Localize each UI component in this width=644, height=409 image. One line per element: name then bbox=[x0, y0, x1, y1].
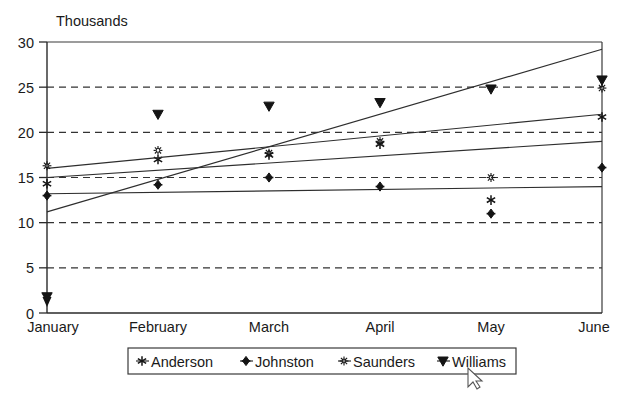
asterisk-ray bbox=[604, 90, 606, 92]
asterisk-ray bbox=[599, 85, 601, 87]
datapoint-williams-may bbox=[486, 85, 496, 94]
asterisk-ray bbox=[493, 174, 495, 176]
asterisk-ray bbox=[160, 147, 162, 149]
triangle-down-icon bbox=[486, 85, 496, 94]
line-chart: 051015202530ThousandsJanuaryFebruaryMarc… bbox=[0, 0, 644, 409]
datapoint-anderson-june bbox=[598, 112, 606, 122]
asterisk-ray bbox=[49, 163, 51, 165]
datapoint-anderson-february bbox=[154, 155, 162, 165]
datapoint-williams-march bbox=[264, 102, 274, 111]
datapoint-johnston-february bbox=[154, 180, 163, 189]
asterisk-ray bbox=[493, 179, 495, 181]
x-tick-label-june: June bbox=[578, 319, 609, 335]
asterisk-ray bbox=[271, 150, 273, 152]
trendline-saunders bbox=[47, 114, 602, 168]
asterisk-ray bbox=[377, 138, 379, 140]
series-anderson bbox=[43, 112, 606, 205]
y-gridlines: 051015202530 bbox=[18, 35, 602, 322]
legend-label-saunders: Saunders bbox=[353, 354, 415, 370]
asterisk-core bbox=[156, 149, 160, 153]
series-johnston bbox=[43, 163, 607, 218]
y-tick-label-20: 20 bbox=[18, 125, 34, 141]
x-tick-label-january: January bbox=[27, 319, 79, 335]
y-tick-label-30: 30 bbox=[18, 35, 34, 51]
x-tick-label-february: February bbox=[129, 319, 188, 335]
asterisk-ray bbox=[160, 152, 162, 154]
legend-label-anderson: Anderson bbox=[151, 354, 213, 370]
asterisk-ray bbox=[604, 85, 606, 87]
asterisk-ray bbox=[44, 163, 46, 165]
datapoint-williams-april bbox=[375, 99, 385, 108]
asterisk-ray bbox=[488, 174, 490, 176]
asterisk-ray bbox=[155, 152, 157, 154]
asterisk-ray bbox=[488, 179, 490, 181]
datapoint-williams-february bbox=[153, 110, 163, 119]
triangle-down-icon bbox=[375, 99, 385, 108]
datapoint-williams-june bbox=[597, 76, 607, 85]
unit-title: Thousands bbox=[56, 13, 128, 29]
datapoint-anderson-may bbox=[487, 195, 495, 205]
datapoint-johnston-june bbox=[598, 163, 607, 172]
legend-label-johnston: Johnston bbox=[255, 354, 314, 370]
chart-container: 051015202530ThousandsJanuaryFebruaryMarc… bbox=[0, 0, 644, 409]
y-tick-label-5: 5 bbox=[26, 260, 34, 276]
triangle-down-icon bbox=[264, 102, 274, 111]
triangle-down-icon bbox=[597, 76, 607, 85]
datapoint-johnston-may bbox=[487, 209, 496, 218]
x-tick-label-march: March bbox=[249, 319, 289, 335]
asterisk-ray bbox=[382, 138, 384, 140]
datapoint-johnston-march bbox=[265, 173, 274, 182]
y-tick-label-15: 15 bbox=[18, 170, 34, 186]
trendline-anderson bbox=[47, 141, 602, 177]
x-tick-label-april: April bbox=[365, 319, 394, 335]
y-tick-label-25: 25 bbox=[18, 80, 34, 96]
datapoint-anderson-january bbox=[43, 179, 51, 189]
legend-label-williams: Williams bbox=[452, 354, 506, 370]
y-tick-label-10: 10 bbox=[18, 215, 34, 231]
triangle-down-icon bbox=[153, 110, 163, 119]
datapoint-johnston-january bbox=[43, 191, 52, 200]
asterisk-ray bbox=[266, 150, 268, 152]
datapoint-saunders-february bbox=[154, 146, 163, 155]
x-tick-label-may: May bbox=[477, 319, 505, 335]
asterisk-ray bbox=[599, 90, 601, 92]
x-tick-labels: JanuaryFebruaryMarchAprilMayJune bbox=[27, 319, 610, 335]
asterisk-ray bbox=[44, 167, 46, 169]
legend: AndersonJohnstonSaundersWilliams bbox=[128, 348, 516, 374]
asterisk-ray bbox=[155, 147, 157, 149]
